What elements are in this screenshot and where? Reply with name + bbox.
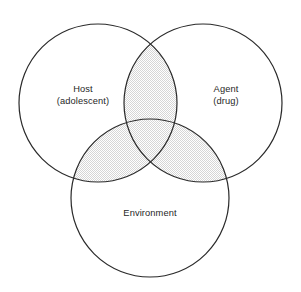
venn-diagram-figure: Host (adolescent) Agent (drug) Environme…: [0, 0, 301, 292]
host-label-line2: (adolescent): [57, 96, 109, 106]
agent-label-line2: (drug): [213, 96, 238, 106]
host-label-line1: Host: [73, 84, 93, 94]
environment-label-line1: Environment: [123, 208, 177, 218]
agent-label-line1: Agent: [214, 84, 239, 94]
venn-diagram-canvas: Host (adolescent) Agent (drug) Environme…: [0, 0, 301, 292]
